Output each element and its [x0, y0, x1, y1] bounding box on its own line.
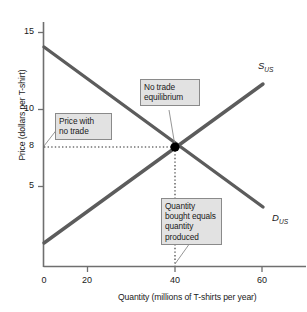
demand-curve-letter: D: [272, 212, 279, 223]
chart-figure: 15 10 8 5 0 20 40 60 Price (dollars per …: [0, 0, 307, 312]
quantity-annotation-leader: [175, 243, 190, 264]
x-tick-marks: [88, 267, 263, 273]
demand-curve-label: DUS: [272, 212, 288, 225]
x-axis-title: Quantity (millions of T-shirts per year): [118, 292, 257, 302]
annotation-quantity-bought-equals-produced: Quantity bought equals quantity produced: [161, 198, 222, 245]
y-tick-marks: [38, 33, 44, 187]
x-tick-label-60: 60: [252, 275, 272, 285]
y-axis-title: Price (dollars per T-shirt): [17, 55, 27, 175]
supply-curve-label: SUS: [258, 60, 274, 73]
x-tick-label-0: 0: [34, 275, 54, 285]
y-tick-label-15: 15: [16, 26, 34, 36]
equilibrium-point: [170, 142, 179, 151]
annotation-no-trade-equilibrium: No trade equilibrium: [140, 79, 200, 106]
annotation-price-with-no-trade: Price with no trade: [55, 113, 112, 140]
y-tick-label-5: 5: [16, 180, 34, 190]
supply-curve: [44, 84, 263, 243]
supply-curve-subscript: US: [264, 66, 273, 73]
supply-demand-plot: [0, 0, 307, 312]
x-tick-label-40: 40: [165, 275, 185, 285]
x-tick-label-20: 20: [77, 275, 97, 285]
demand-curve-subscript: US: [279, 218, 288, 225]
